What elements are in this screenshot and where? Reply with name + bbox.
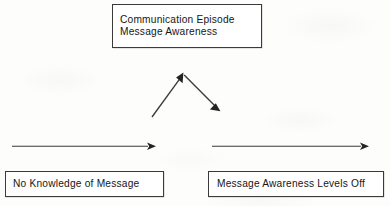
node-communication-episode-line1: Communication Episode xyxy=(120,14,261,26)
declining-awareness-arrow xyxy=(184,75,220,111)
node-communication-episode-line2: Message Awareness xyxy=(120,26,261,38)
rising-awareness-arrow xyxy=(152,73,183,117)
node-message-awareness-levels-off: Message Awareness Levels Off xyxy=(208,171,384,197)
baseline-arrow-right xyxy=(212,142,369,150)
node-no-knowledge-of-message: No Knowledge of Message xyxy=(5,171,164,197)
baseline-arrow-left xyxy=(12,142,156,150)
node-communication-episode: Communication Episode Message Awareness xyxy=(112,4,262,48)
node-message-awareness-levels-off-label: Message Awareness Levels Off xyxy=(217,178,383,190)
node-no-knowledge-of-message-label: No Knowledge of Message xyxy=(13,178,163,190)
diagram-canvas: Communication Episode Message Awareness … xyxy=(0,0,390,206)
